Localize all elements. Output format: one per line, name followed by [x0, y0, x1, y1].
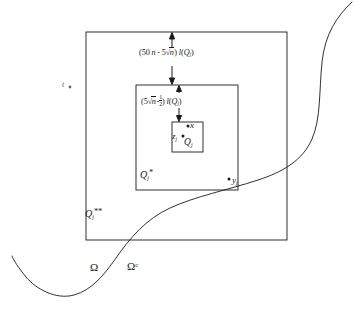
diagram-vectors — [0, 0, 355, 309]
outer-label-superscript: ** — [94, 206, 102, 216]
inner-square-label: Qj — [184, 138, 193, 149]
formula-minus: - — [157, 48, 160, 57]
inner-gap-formula: (5√n-12) l(Qj) — [141, 94, 182, 107]
omega-complement-superscript: c — [135, 261, 138, 268]
outer-square — [86, 32, 287, 240]
arg2-paren-close: ) — [179, 97, 182, 106]
outer-gap-arrow — [169, 33, 174, 85]
outer-gap-formula: (50 n - 5√n) l(Qj) — [139, 49, 194, 58]
middle-square-label: Qj* — [140, 168, 153, 181]
arg-paren-close: ) — [191, 48, 194, 57]
point-y-label: yj — [232, 176, 238, 186]
formula2-paren-close: ) — [162, 97, 165, 106]
inner-label-letter: Q — [184, 137, 191, 147]
omega-complement-label: Ωc — [127, 261, 138, 272]
point-y-subscript: j — [236, 180, 238, 186]
boundary-curve — [12, 2, 352, 296]
point-t-label: t — [62, 81, 64, 89]
formula-paren-close: ) — [174, 48, 177, 57]
point-z-label: zj — [172, 132, 177, 142]
point-t-dot — [69, 86, 72, 89]
formula-coefficient: 50 — [142, 48, 150, 57]
omega-complement-letter: Ω — [127, 260, 135, 272]
outer-square-label: Qj** — [85, 207, 102, 220]
formula-variable-n: n — [152, 48, 156, 57]
figure-canvas: (50 n - 5√n) l(Qj) (5√n-12) l(Qj) Qj** Q… — [0, 0, 355, 309]
point-z-subscript: j — [176, 136, 178, 142]
omega-label: Ω — [90, 262, 98, 273]
middle-label-superscript: * — [149, 167, 153, 177]
point-y-dot — [228, 178, 231, 181]
point-x-label: x — [190, 121, 194, 130]
inner-label-subscript: j — [191, 142, 193, 148]
